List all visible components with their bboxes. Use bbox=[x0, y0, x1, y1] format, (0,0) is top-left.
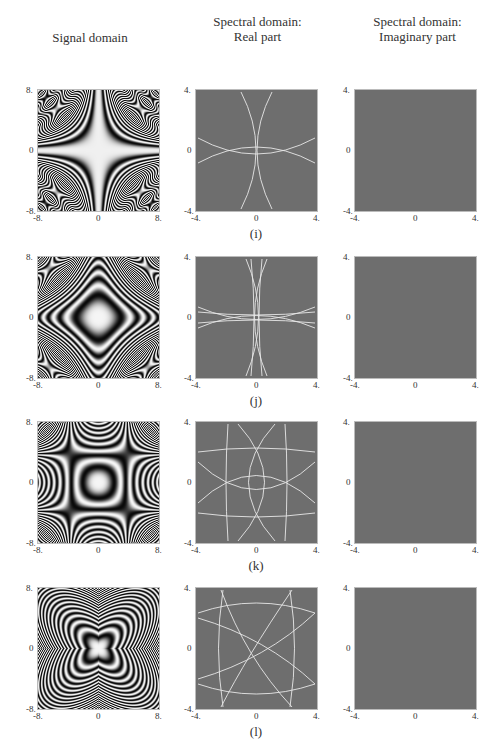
row-caption: (j) bbox=[236, 393, 276, 409]
x-tick-max: 4. bbox=[472, 380, 479, 390]
y-tick-mid: 0 bbox=[346, 312, 351, 322]
panel-signal-2 bbox=[37, 256, 160, 379]
x-tick-mid: 0 bbox=[254, 545, 259, 555]
x-tick-max: 4. bbox=[313, 380, 320, 390]
y-tick-max: 4. bbox=[343, 583, 350, 593]
x-tick-min: -8. bbox=[33, 545, 43, 555]
y-tick-max: 8. bbox=[26, 417, 33, 427]
y-tick-max: 4. bbox=[343, 85, 350, 95]
header-spectral-real: Spectral domain: Real part bbox=[185, 14, 330, 44]
y-tick-mid: 0 bbox=[29, 312, 34, 322]
x-tick-min: -4. bbox=[191, 380, 201, 390]
x-tick-max: 4. bbox=[313, 711, 320, 721]
y-tick-mid: 0 bbox=[29, 477, 34, 487]
spectrum-image bbox=[196, 588, 317, 709]
header-line: Spectral domain: bbox=[345, 14, 490, 29]
x-tick-mid: 0 bbox=[96, 711, 101, 721]
spectrum-image bbox=[355, 588, 476, 709]
row-caption: (i) bbox=[236, 226, 276, 242]
x-tick-min: -8. bbox=[33, 380, 43, 390]
x-tick-mid: 0 bbox=[254, 380, 259, 390]
y-tick-mid: 0 bbox=[346, 643, 351, 653]
x-tick-mid: 0 bbox=[96, 545, 101, 555]
panel-real-4 bbox=[195, 587, 318, 710]
y-tick-max: 4. bbox=[184, 85, 191, 95]
y-tick-max: 4. bbox=[343, 252, 350, 262]
x-tick-min: -4. bbox=[191, 545, 201, 555]
panel-real-1 bbox=[195, 89, 318, 212]
x-tick-mid: 0 bbox=[254, 711, 259, 721]
y-tick-max: 4. bbox=[184, 583, 191, 593]
fringe-pattern-image bbox=[38, 90, 159, 211]
panel-imag-1 bbox=[354, 89, 477, 212]
fringe-pattern-image bbox=[38, 422, 159, 543]
y-tick-mid: 0 bbox=[187, 145, 192, 155]
x-tick-mid: 0 bbox=[254, 213, 259, 223]
panel-real-3 bbox=[195, 421, 318, 544]
y-tick-mid: 0 bbox=[29, 643, 34, 653]
x-tick-min: -4. bbox=[350, 711, 360, 721]
x-tick-max: 4. bbox=[313, 545, 320, 555]
header-line: Imaginary part bbox=[345, 29, 490, 44]
panel-signal-1 bbox=[37, 89, 160, 212]
fringe-pattern-image bbox=[38, 257, 159, 378]
panel-imag-3 bbox=[354, 421, 477, 544]
x-tick-mid: 0 bbox=[413, 545, 418, 555]
y-tick-mid: 0 bbox=[187, 312, 192, 322]
x-tick-min: -4. bbox=[350, 545, 360, 555]
fringe-pattern-image bbox=[38, 588, 159, 709]
y-tick-max: 4. bbox=[184, 417, 191, 427]
x-tick-max: 4. bbox=[472, 545, 479, 555]
header-line: Spectral domain: bbox=[185, 14, 330, 29]
y-tick-mid: 0 bbox=[346, 145, 351, 155]
x-tick-max: 8. bbox=[155, 213, 162, 223]
panel-imag-2 bbox=[354, 256, 477, 379]
spectrum-image bbox=[355, 257, 476, 378]
x-tick-mid: 0 bbox=[96, 213, 101, 223]
y-tick-max: 4. bbox=[184, 252, 191, 262]
x-tick-max: 8. bbox=[155, 711, 162, 721]
x-tick-max: 8. bbox=[155, 545, 162, 555]
x-tick-min: -4. bbox=[191, 711, 201, 721]
y-tick-max: 8. bbox=[26, 85, 33, 95]
panel-signal-4 bbox=[37, 587, 160, 710]
x-tick-max: 4. bbox=[472, 711, 479, 721]
x-tick-max: 4. bbox=[472, 213, 479, 223]
panel-real-2 bbox=[195, 256, 318, 379]
y-tick-max: 8. bbox=[26, 252, 33, 262]
header-spectral-imag: Spectral domain: Imaginary part bbox=[345, 14, 490, 44]
y-tick-mid: 0 bbox=[29, 145, 34, 155]
x-tick-mid: 0 bbox=[96, 380, 101, 390]
x-tick-min: -4. bbox=[191, 213, 201, 223]
x-tick-max: 8. bbox=[155, 380, 162, 390]
row-caption: (k) bbox=[236, 558, 276, 574]
x-tick-max: 4. bbox=[313, 213, 320, 223]
spectrum-image bbox=[196, 90, 317, 211]
x-tick-min: -4. bbox=[350, 380, 360, 390]
header-line: Real part bbox=[185, 29, 330, 44]
y-tick-mid: 0 bbox=[346, 477, 351, 487]
header-signal-domain: Signal domain bbox=[20, 30, 160, 45]
y-tick-mid: 0 bbox=[187, 477, 192, 487]
y-tick-max: 4. bbox=[343, 417, 350, 427]
x-tick-min: -8. bbox=[33, 711, 43, 721]
panel-imag-4 bbox=[354, 587, 477, 710]
row-caption: (l) bbox=[236, 724, 276, 740]
y-tick-mid: 0 bbox=[187, 643, 192, 653]
spectrum-image bbox=[355, 422, 476, 543]
spectrum-image bbox=[196, 257, 317, 378]
spectrum-image bbox=[355, 90, 476, 211]
x-tick-min: -8. bbox=[33, 213, 43, 223]
x-tick-mid: 0 bbox=[413, 380, 418, 390]
spectrum-image bbox=[196, 422, 317, 543]
x-tick-mid: 0 bbox=[413, 213, 418, 223]
panel-signal-3 bbox=[37, 421, 160, 544]
x-tick-min: -4. bbox=[350, 213, 360, 223]
header-line: Signal domain bbox=[20, 30, 160, 45]
x-tick-mid: 0 bbox=[413, 711, 418, 721]
y-tick-max: 8. bbox=[26, 583, 33, 593]
